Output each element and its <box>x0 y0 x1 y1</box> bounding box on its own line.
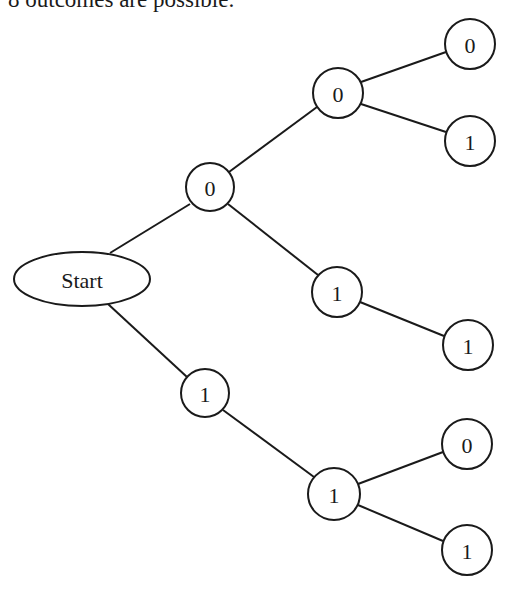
node-level3-011: 1 <box>443 320 493 370</box>
tree-diagram: Start 0 1 0 1 1 0 1 1 0 1 <box>0 0 515 589</box>
start-label: Start <box>61 268 103 293</box>
edge-0-to-01 <box>228 204 318 275</box>
node-level1-1: 1 <box>181 369 229 417</box>
node-label: 0 <box>462 433 473 458</box>
node-label: 0 <box>205 176 216 201</box>
node-label: 1 <box>462 539 473 564</box>
node-label: 1 <box>465 130 476 155</box>
node-level2-00: 0 <box>313 68 363 118</box>
node-level2-11: 1 <box>308 468 360 520</box>
node-level2-01: 1 <box>312 267 362 317</box>
node-label: 0 <box>333 82 344 107</box>
root-node-start: Start <box>14 252 150 306</box>
edge-start-to-0 <box>110 204 190 253</box>
node-label: 1 <box>200 382 211 407</box>
edge-11-to-111 <box>358 505 443 541</box>
node-level3-000: 0 <box>445 19 495 69</box>
node-level3-001: 1 <box>445 116 495 166</box>
edge-0-to-00 <box>229 107 317 172</box>
node-level1-0: 0 <box>186 163 234 211</box>
node-label: 1 <box>332 281 343 306</box>
node-level3-111: 1 <box>442 525 492 575</box>
edge-1-to-11 <box>223 410 314 477</box>
edge-start-to-1 <box>108 304 187 377</box>
edges-group <box>108 52 446 541</box>
edge-01-to-011 <box>360 302 444 336</box>
edge-11-to-110 <box>358 452 443 484</box>
node-label: 0 <box>465 33 476 58</box>
edge-00-to-001 <box>361 104 446 132</box>
edge-00-to-000 <box>361 52 446 82</box>
node-label: 1 <box>463 334 474 359</box>
node-level3-110: 0 <box>442 419 492 469</box>
node-label: 1 <box>329 483 340 508</box>
